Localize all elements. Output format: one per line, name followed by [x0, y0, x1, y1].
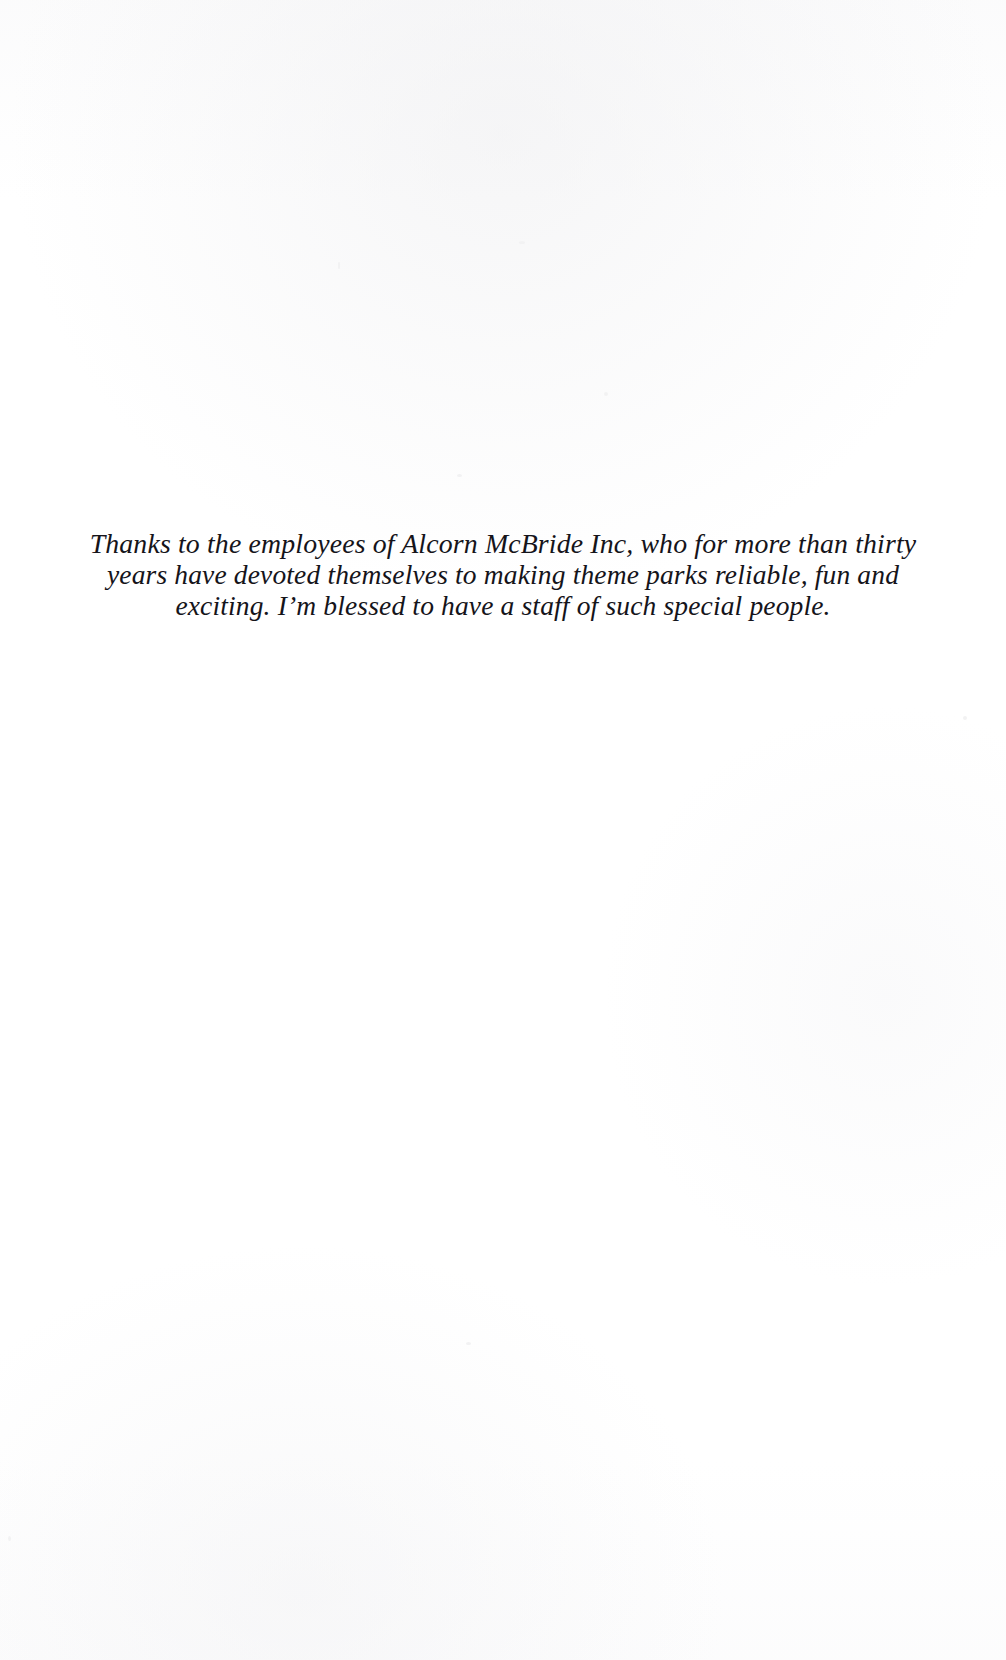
dedication-text-block: Thanks to the employees of Alcorn McBrid…	[0, 528, 1006, 621]
dedication-line-2: years have devoted themselves to making …	[40, 559, 966, 590]
scan-speck	[8, 1536, 11, 1541]
scan-speck	[963, 716, 967, 720]
dedication-line-1: Thanks to the employees of Alcorn McBrid…	[40, 528, 966, 559]
scan-speck	[466, 1342, 471, 1345]
dedication-line-3: exciting. I’m blessed to have a staff of…	[40, 590, 966, 621]
scan-speck	[519, 241, 525, 244]
scan-noise-overlay	[0, 0, 1006, 1660]
scan-speck	[457, 474, 462, 477]
scan-speck	[338, 262, 340, 269]
scanned-page: Thanks to the employees of Alcorn McBrid…	[0, 0, 1006, 1660]
scan-speck	[604, 392, 608, 396]
